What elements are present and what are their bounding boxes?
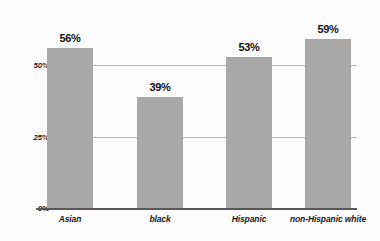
bar-chart: 50% 25% 0% 56% 39% 53% 59% Asian black H… <box>0 0 380 241</box>
bar-asian[interactable] <box>47 48 93 208</box>
bar-group-asian: 56% <box>47 7 93 208</box>
plot-area: 56% 39% 53% 59% <box>47 8 357 209</box>
x-label-asian: Asian <box>59 214 82 224</box>
axis-baseline <box>36 208 357 210</box>
bar-hispanic[interactable] <box>226 57 272 208</box>
bar-group-black: 39% <box>137 7 183 208</box>
bar-value-black: 39% <box>125 81 195 93</box>
bar-group-hispanic: 53% <box>226 7 272 208</box>
bar-value-asian: 56% <box>35 32 105 44</box>
bar-black[interactable] <box>137 97 183 208</box>
bar-value-hispanic: 53% <box>214 41 284 53</box>
bar-group-non-hispanic-white: 59% <box>305 7 351 208</box>
x-label-black: black <box>149 214 170 224</box>
x-label-non-hispanic-white: non-Hispanic white <box>290 214 366 224</box>
bar-value-non-hispanic-white: 59% <box>293 23 363 35</box>
x-label-hispanic: Hispanic <box>232 214 267 224</box>
bar-non-hispanic-white[interactable] <box>305 39 351 208</box>
